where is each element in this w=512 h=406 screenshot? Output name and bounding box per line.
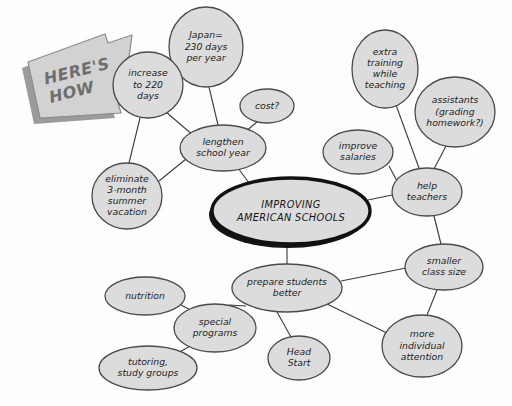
node-prepare-students[interactable]: prepare studentsbetter [232,264,342,312]
node-label-assistants: assistants [432,94,479,105]
node-label-eliminate: 3-month [107,184,147,195]
node-label-cost: cost? [255,100,279,111]
node-label-increase-220: increase [128,67,168,78]
node-label-special-programs: special [199,316,232,327]
node-label-japan: 230 days [185,41,228,52]
edge-assistants-to-help-teachers [434,146,446,169]
edge-improve-salaries-to-help-teachers [389,166,397,181]
node-label-eliminate: eliminate [105,173,149,184]
node-label-smaller-class: class size [422,266,466,277]
node-label-assistants: homework?) [426,117,483,128]
mind-map-canvas: HERE'S HOW Japan=230 daysper yearincreas… [0,0,512,406]
node-head-start[interactable]: HeadStart [268,336,330,380]
node-label-help-teachers: teachers [407,191,448,202]
node-smaller-class[interactable]: smallerclass size [405,244,483,290]
node-eliminate[interactable]: eliminate3-monthsummervacation [92,163,162,229]
node-label-center: IMPROVING [261,199,320,210]
node-label-improve-salaries: salaries [340,151,376,162]
node-label-extra-training: extra [373,46,398,57]
edge-smaller-class-to-more-individual [427,290,437,315]
node-label-prepare-students: prepare students [246,276,327,287]
nodes-layer: Japan=230 daysper yearincreaseto 220days… [92,7,495,390]
node-label-head-start: Head [287,346,311,357]
node-label-extra-training: while [373,68,398,79]
node-label-more-individual: attention [401,351,444,362]
edge-japan-to-lengthen [209,87,218,125]
node-label-lengthen: lengthen [202,136,243,147]
node-label-more-individual: individual [399,340,445,351]
node-improve-salaries[interactable]: improvesalaries [323,130,393,174]
node-extra-training[interactable]: extratrainingwhileteaching [352,30,418,108]
edge-help-teachers-to-smaller-class [434,216,441,244]
node-label-special-programs: programs [192,327,238,338]
mind-map-svg: HERE'S HOW Japan=230 daysper yearincreas… [0,0,512,406]
edge-eliminate-to-lengthen [159,159,186,181]
node-label-japan: Japan= [187,29,223,40]
edge-increase-220-to-lengthen [166,112,194,136]
node-label-head-start: Start [288,357,311,368]
node-label-nutrition: nutrition [125,290,165,301]
node-label-extra-training: teaching [365,79,406,90]
node-tutoring[interactable]: tutoring,study groups [99,346,197,390]
node-cost[interactable]: cost? [240,89,294,123]
node-label-tutoring: study groups [118,367,179,378]
node-label-extra-training: training [367,57,403,68]
node-center[interactable]: IMPROVINGAMERICAN SCHOOLS [209,178,370,248]
edge-prepare-students-to-head-start [277,312,291,337]
node-more-individual[interactable]: moreindividualattention [382,315,462,377]
edge-increase-220-to-eliminate [129,118,140,163]
node-label-eliminate: summer [108,195,148,206]
node-lengthen[interactable]: lengthenschool year [180,125,266,171]
node-label-smaller-class: smaller [427,255,462,266]
node-increase-220[interactable]: increaseto 220days [113,52,183,118]
node-help-teachers[interactable]: helpteachers [392,168,462,216]
node-label-more-individual: more [410,328,435,339]
node-label-help-teachers: help [417,180,437,191]
node-label-increase-220: days [137,90,159,101]
node-label-japan: per year [185,52,226,63]
node-label-tutoring: tutoring, [128,356,168,367]
node-label-prepare-students: better [273,287,303,298]
edge-prepare-students-to-smaller-class [341,268,406,281]
node-label-improve-salaries: improve [339,140,378,151]
node-label-increase-220: to 220 [133,79,163,90]
edge-center-to-help-teachers [368,195,392,200]
node-label-center: AMERICAN SCHOOLS [236,212,345,223]
node-special-programs[interactable]: specialprograms [174,304,256,352]
edge-prepare-students-to-more-individual [327,304,389,334]
node-label-eliminate: vacation [107,206,147,217]
node-label-assistants: (grading [435,106,474,117]
node-assistants[interactable]: assistants(gradinghomework?) [415,77,495,147]
node-label-lengthen: school year [196,147,251,158]
node-nutrition[interactable]: nutrition [105,277,185,315]
